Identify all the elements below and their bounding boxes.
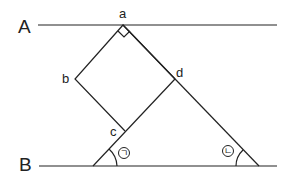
geometry-diagram [0,0,294,181]
line-A-label: A [18,17,31,36]
right-angle-mark [118,31,130,37]
angle-arc-1 [109,149,117,166]
point-a-label: a [119,7,126,20]
angle-arc-2 [236,150,243,166]
point-b-label: b [62,72,69,85]
point-d-label: d [176,66,183,79]
segment-bottom-left-d [93,79,175,166]
line-B-label: B [19,155,32,174]
angle-2-label: ㄴ [222,145,234,157]
point-c-label: c [110,125,117,138]
angle-1-label: ㄱ [118,147,130,159]
segment-a-bottom-right [123,25,259,166]
square-sides [75,25,175,131]
